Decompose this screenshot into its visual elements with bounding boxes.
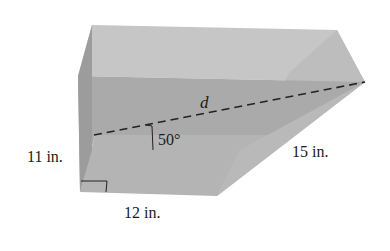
label-slant: 15 in. (292, 143, 328, 160)
label-angle: 50° (158, 131, 180, 148)
prism-figure: d 50° 11 in. 15 in. 12 in. (0, 0, 390, 251)
label-base: 12 in. (124, 204, 160, 221)
label-d: d (200, 93, 209, 112)
prism-diagram: d 50° 11 in. 15 in. 12 in. (0, 0, 390, 251)
label-height: 11 in. (27, 148, 63, 165)
